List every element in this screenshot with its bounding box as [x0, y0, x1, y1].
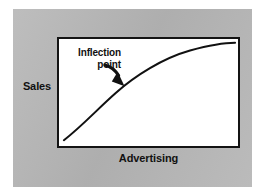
- figure-root: Sales Inflection point Advertising: [0, 0, 263, 196]
- y-axis-title: Sales: [18, 80, 56, 92]
- annotation-line-2: point: [67, 59, 121, 71]
- x-axis-title: Advertising: [57, 152, 240, 164]
- plot-frame: Inflection point: [57, 37, 240, 148]
- inflection-point-annotation: Inflection point: [67, 47, 121, 70]
- annotation-line-1: Inflection: [67, 47, 121, 59]
